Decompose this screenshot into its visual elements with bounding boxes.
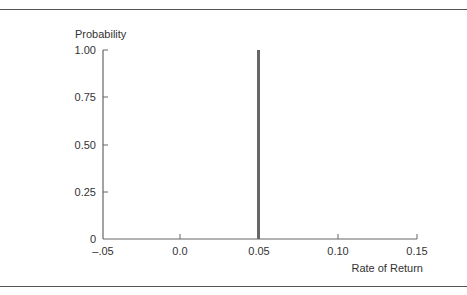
x-tick-label: 0.15 (406, 245, 427, 257)
x-tick-label: 0.05 (248, 245, 269, 257)
y-tick-label: 0.25 (75, 186, 96, 198)
y-tick-label: 0 (90, 233, 96, 245)
x-tick-label: 0.0 (172, 245, 187, 257)
y-tick-label: 0.75 (75, 91, 96, 103)
y-tick-label: 0.50 (75, 139, 96, 151)
x-tick-label: –.05 (92, 245, 113, 257)
x-tick-label: 0.10 (327, 245, 348, 257)
y-ticks (103, 50, 108, 192)
y-axis-label: Probability (75, 28, 127, 40)
x-ticks (180, 234, 417, 239)
y-tick-label: 1.00 (75, 44, 96, 56)
x-axis-label: Rate of Return (351, 262, 423, 274)
chart: Probability 1.00 0.75 0.50 0.25 0 –.05 0… (0, 0, 467, 295)
probability-bar (257, 50, 260, 239)
